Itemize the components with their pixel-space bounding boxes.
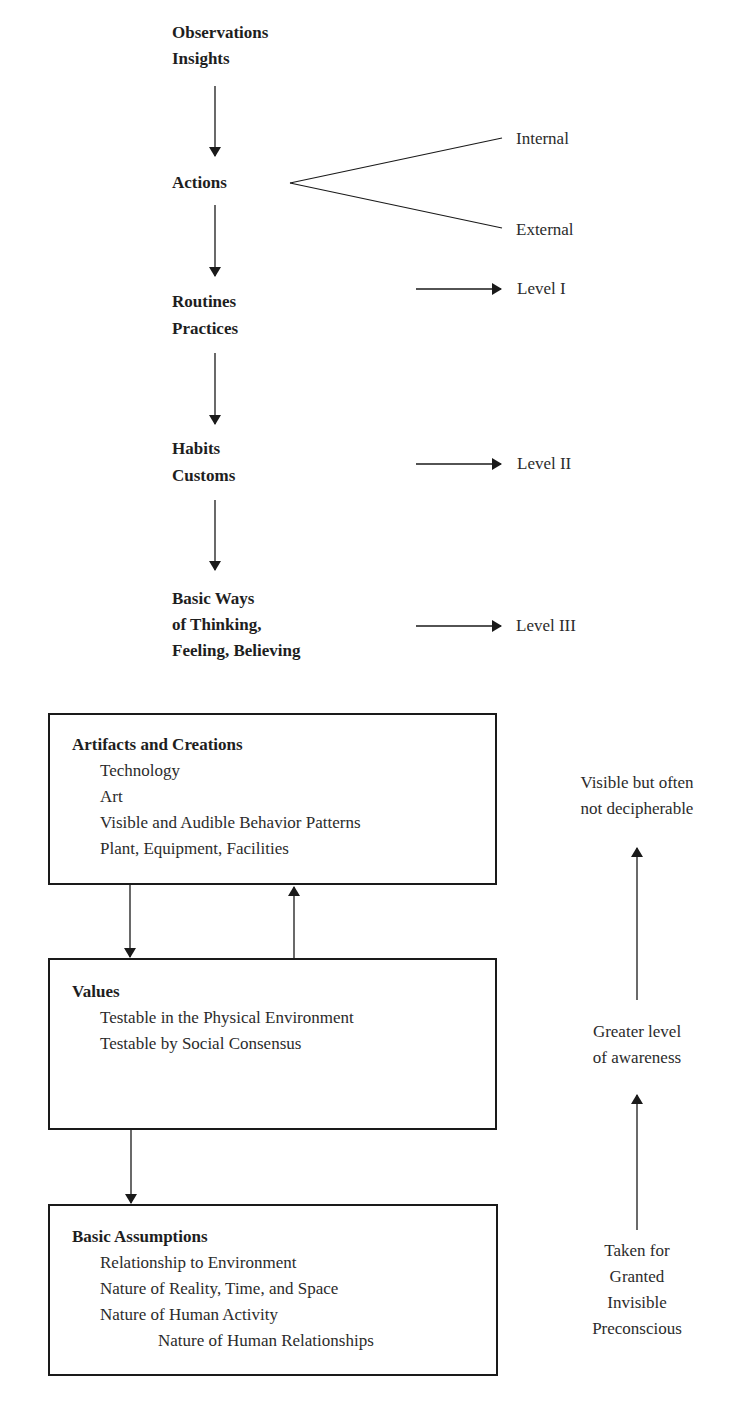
- awareness-middle-line2: of awareness: [537, 1047, 737, 1069]
- assumptions-title: Basic Assumptions: [72, 1224, 208, 1250]
- culture-levels-diagram: Observations Insights Actions Internal E…: [0, 0, 756, 1417]
- assumptions-item: Relationship to Environment: [100, 1250, 296, 1276]
- stage-habits: Habits: [172, 438, 220, 460]
- branch-label-external: External: [516, 219, 574, 241]
- values-item: Testable by Social Consensus: [100, 1031, 301, 1057]
- stage-insights: Insights: [172, 48, 230, 70]
- artifacts-item: Plant, Equipment, Facilities: [100, 836, 289, 862]
- stage-actions: Actions: [172, 172, 227, 194]
- stage-observations: Observations: [172, 22, 268, 44]
- artifacts-item: Visible and Audible Behavior Patterns: [100, 810, 361, 836]
- values-title: Values: [72, 979, 120, 1005]
- awareness-bottom-line3: Invisible: [537, 1292, 737, 1314]
- artifacts-item: Art: [100, 784, 123, 810]
- values-box: Values Testable in the Physical Environm…: [48, 958, 497, 1130]
- branch-line-internal: [290, 138, 502, 183]
- level-label-1: Level I: [517, 278, 566, 300]
- assumptions-box: Basic Assumptions Relationship to Enviro…: [48, 1204, 498, 1376]
- artifacts-title: Artifacts and Creations: [72, 732, 243, 758]
- assumptions-item: Nature of Human Relationships: [158, 1328, 374, 1354]
- stage-basic-ways-line3: Feeling, Believing: [172, 640, 300, 662]
- awareness-middle-line1: Greater level: [537, 1021, 737, 1043]
- values-item: Testable in the Physical Environment: [100, 1005, 354, 1031]
- assumptions-item: Nature of Human Activity: [100, 1302, 278, 1328]
- artifacts-item: Technology: [100, 758, 180, 784]
- awareness-top-line1: Visible but often: [537, 772, 737, 794]
- stage-customs: Customs: [172, 465, 235, 487]
- level-label-3: Level III: [516, 615, 576, 637]
- awareness-bottom-line2: Granted: [537, 1266, 737, 1288]
- branch-label-internal: Internal: [516, 128, 569, 150]
- awareness-top-line2: not decipherable: [537, 798, 737, 820]
- awareness-bottom-line4: Preconscious: [537, 1318, 737, 1340]
- artifacts-box: Artifacts and Creations Technology Art V…: [48, 713, 497, 885]
- branch-line-external: [290, 183, 502, 228]
- stage-basic-ways-line2: of Thinking,: [172, 614, 261, 636]
- level-label-2: Level II: [517, 453, 571, 475]
- stage-routines: Routines: [172, 291, 236, 313]
- awareness-bottom-line1: Taken for: [537, 1240, 737, 1262]
- stage-basic-ways-line1: Basic Ways: [172, 588, 254, 610]
- assumptions-item: Nature of Reality, Time, and Space: [100, 1276, 338, 1302]
- stage-practices: Practices: [172, 318, 238, 340]
